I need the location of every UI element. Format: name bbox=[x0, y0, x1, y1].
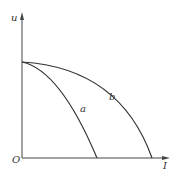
y-axis-arrow-icon bbox=[20, 12, 24, 20]
curve-b-label: b bbox=[109, 92, 115, 102]
x-axis-label: I bbox=[163, 161, 167, 171]
curve-a-label: a bbox=[80, 104, 86, 114]
curve-b bbox=[22, 62, 152, 158]
plot-area bbox=[0, 0, 179, 178]
origin-label: O bbox=[12, 155, 20, 165]
y-axis-label: u bbox=[11, 13, 17, 23]
